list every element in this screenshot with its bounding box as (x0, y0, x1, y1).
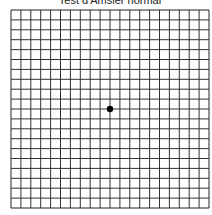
fixation-dot (107, 106, 113, 112)
amsler-grid (0, 0, 212, 215)
